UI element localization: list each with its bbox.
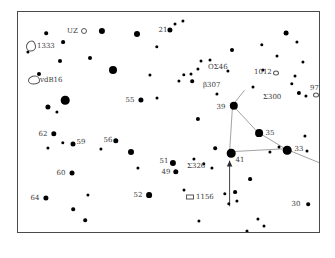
constellation-line	[233, 105, 258, 132]
star-marker	[155, 45, 158, 48]
star-label: 60	[57, 170, 66, 177]
star-label: 59	[77, 139, 86, 146]
object-label: Σ375	[80, 233, 98, 234]
star-marker	[136, 166, 139, 169]
star-marker	[227, 149, 236, 158]
star-marker	[58, 59, 62, 63]
star-marker	[86, 193, 89, 196]
star-marker	[183, 189, 186, 192]
star-marker	[230, 102, 238, 110]
star-marker	[233, 190, 237, 194]
star-marker	[196, 117, 200, 121]
variable-star-icon	[81, 28, 87, 34]
variable-star-icon	[273, 71, 279, 76]
star-marker	[209, 59, 212, 62]
star-marker	[278, 146, 281, 149]
star-marker	[295, 40, 298, 43]
star-label: 41	[236, 157, 245, 164]
star-marker	[45, 104, 50, 109]
variable-star-icon	[313, 93, 319, 98]
object-label: β307	[203, 82, 220, 89]
star-marker	[83, 218, 87, 222]
star-marker	[177, 79, 180, 82]
star-label: 33	[295, 146, 304, 153]
star-label: 55	[126, 97, 135, 104]
star-marker	[134, 31, 140, 37]
star-marker	[227, 202, 230, 205]
star-marker	[167, 27, 172, 32]
star-marker	[255, 129, 263, 137]
star-marker	[51, 131, 56, 136]
star-label: 21	[159, 27, 168, 34]
star-marker	[284, 31, 289, 36]
star-marker	[268, 150, 271, 153]
star-marker	[174, 23, 177, 26]
object-label: 1012	[254, 69, 272, 76]
star-label: 51	[160, 158, 169, 165]
star-label: 35	[266, 130, 275, 137]
star-marker	[43, 195, 48, 200]
star-label: 39	[217, 104, 226, 111]
chart-vector-overlay	[18, 12, 319, 232]
star-label: 49	[162, 169, 171, 176]
open-cluster-icon	[186, 195, 194, 200]
star-label: 56	[104, 137, 113, 144]
star-label: 62	[39, 131, 48, 138]
star-marker	[182, 73, 185, 76]
star-marker	[128, 149, 134, 155]
star-marker	[301, 60, 304, 63]
star-marker	[256, 217, 259, 220]
star-marker	[61, 141, 64, 144]
star-marker	[44, 31, 48, 35]
star-marker	[181, 19, 184, 22]
star-marker	[71, 142, 76, 147]
star-marker	[46, 146, 49, 149]
star-marker	[109, 66, 117, 74]
star-marker	[290, 82, 293, 85]
star-marker	[223, 192, 226, 195]
star-marker	[190, 79, 194, 83]
star-marker	[306, 202, 310, 206]
star-marker	[99, 147, 102, 150]
object-label: 972	[310, 85, 320, 92]
star-marker	[148, 73, 151, 76]
star-marker	[283, 146, 292, 155]
star-marker	[156, 97, 159, 100]
star-marker	[61, 96, 70, 105]
nebula-icon	[26, 41, 36, 52]
star-marker	[55, 110, 58, 113]
constellation-line	[230, 149, 286, 152]
object-label: vdB16	[40, 77, 63, 84]
constellation-line	[230, 105, 233, 152]
star-marker	[260, 43, 263, 46]
object-label: UZ	[67, 28, 78, 35]
star-marker	[196, 67, 199, 70]
star-label: 52	[134, 192, 143, 199]
star-marker	[252, 86, 255, 89]
star-marker	[197, 219, 200, 222]
star-marker	[138, 97, 143, 102]
star-marker	[235, 199, 238, 202]
star-marker	[88, 56, 92, 60]
star-label: 64	[31, 195, 40, 202]
star-marker	[213, 146, 217, 150]
target-arrow-head	[227, 161, 233, 167]
object-label: 1156	[196, 194, 214, 201]
object-label: Σ300	[263, 94, 281, 101]
nebula-icon	[28, 76, 40, 85]
star-label: 30	[292, 201, 301, 208]
star-marker	[70, 171, 75, 176]
object-label: Σ326	[187, 163, 205, 170]
object-label: 1333	[37, 43, 55, 50]
star-marker	[113, 138, 118, 143]
star-field-frame: 215562595651496052643941353330UZ1333vdB1…	[17, 11, 320, 233]
star-marker	[304, 94, 307, 97]
star-marker	[246, 230, 249, 233]
star-marker	[230, 48, 234, 52]
star-marker	[146, 192, 152, 198]
star-marker	[276, 55, 279, 58]
object-label: OΣ46	[208, 64, 228, 71]
star-marker	[248, 177, 252, 181]
star-marker	[303, 134, 306, 137]
star-marker	[71, 207, 75, 211]
